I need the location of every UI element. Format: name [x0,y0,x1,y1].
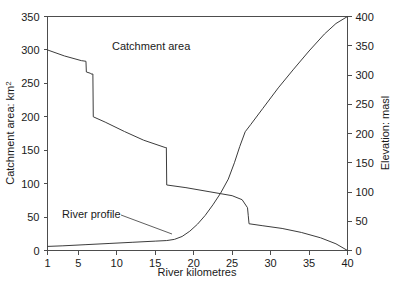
y-axis-right-title: Elevation: masl [379,96,391,171]
x-axis-tick-label: 35 [303,257,315,269]
river-profile-label: River profile [62,208,121,220]
x-axis-tick-label: 40 [341,257,353,269]
y-axis-right-tick-label: 150 [356,157,374,169]
x-axis-tick-label: 10 [111,257,123,269]
y-axis-left-tick-label: 150 [21,144,39,156]
y-axis-right-tick-label: 200 [356,128,374,140]
y-axis-left-tick-label: 0 [33,245,39,257]
x-axis-tick-label: 5 [75,257,81,269]
series-line-catchment-area [48,50,348,251]
y-axis-left-tick-label: 50 [27,211,39,223]
x-axis-tick-label: 30 [264,257,276,269]
chart-figure: 050100150200250300350 050100150200250300… [0,0,399,289]
y-axis-left-tick-label: 350 [21,11,39,23]
y-axis-left-title-superscript: 2 [4,81,13,86]
annotation-leaders [121,215,172,234]
y-axis-left-title: Catchment area: km2 [4,81,16,185]
catchment-area-label: Catchment area [112,40,191,52]
river-profile-leader-line [121,215,172,234]
y-axis-right-tick-label: 300 [356,69,374,81]
y-axis-right-tick-label: 400 [356,11,374,23]
y-axis-right-tick-label: 100 [356,186,374,198]
y-axis-right-tick-label: 0 [356,245,362,257]
y-axis-right-tick-label: 250 [356,98,374,110]
y-axis-left-tick-label: 250 [21,77,39,89]
x-axis-title: River kilometres [158,266,237,278]
y-axis-right-ticks: 050100150200250300350400 [348,11,374,257]
y-axis-right-tick-label: 50 [356,215,368,227]
y-axis-left-title-main: Catchment area: km [4,86,16,185]
x-axis-tick-label: 1 [44,257,50,269]
y-axis-left-tick-label: 100 [21,178,39,190]
chart-plot-svg: 050100150200250300350 050100150200250300… [0,0,399,289]
y-axis-left-ticks: 050100150200250300350 [21,11,47,257]
y-axis-left-tick-label: 200 [21,111,39,123]
y-axis-right-tick-label: 350 [356,40,374,52]
y-axis-left-tick-label: 300 [21,44,39,56]
